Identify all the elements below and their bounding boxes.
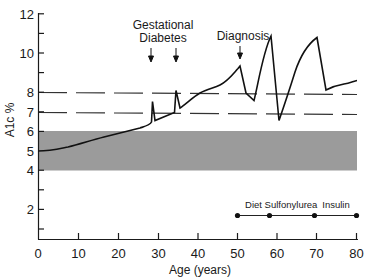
svg-text:60: 60	[270, 246, 284, 261]
y-tick-labels: 12 10 8 7 6 5 4 2	[20, 7, 34, 218]
gestational-arrow-icon-2	[174, 48, 179, 62]
treatment-label-diet: Diet	[245, 199, 262, 210]
svg-text:30: 30	[151, 246, 165, 261]
x-axis-title: Age (years)	[169, 263, 231, 277]
a1c-chart: 12 10 8 7 6 5 4 2 0 10 20 30 40 50 60 70…	[0, 0, 369, 280]
svg-text:20: 20	[111, 246, 125, 261]
y-axis-title: A1c %	[3, 102, 17, 137]
diagnosis-label: Diagnosis	[217, 29, 270, 43]
reference-line-7	[38, 113, 357, 115]
treatment-label-sulfonylurea: Sulfonylurea	[265, 199, 319, 210]
normal-range-band	[38, 131, 357, 171]
diagnosis-arrow-icon	[238, 46, 243, 59]
svg-text:5: 5	[27, 144, 34, 159]
svg-text:2: 2	[27, 202, 34, 217]
svg-text:50: 50	[230, 246, 244, 261]
x-tick-labels: 0 10 20 30 40 50 60 70 80	[34, 246, 363, 261]
svg-text:7: 7	[27, 105, 34, 120]
x-ticks	[79, 233, 357, 239]
svg-text:4: 4	[27, 163, 34, 178]
svg-text:0: 0	[34, 246, 41, 261]
svg-text:40: 40	[191, 246, 205, 261]
svg-text:12: 12	[20, 7, 34, 22]
svg-text:70: 70	[309, 246, 323, 261]
svg-text:8: 8	[27, 85, 34, 100]
svg-text:6: 6	[27, 124, 34, 139]
svg-text:10: 10	[71, 246, 85, 261]
gestational-arrow-icon-1	[149, 48, 154, 62]
gestational-label-line2: Diabetes	[139, 31, 186, 45]
svg-text:10: 10	[20, 46, 34, 61]
treatment-label-insulin: Insulin	[322, 199, 349, 210]
svg-text:80: 80	[349, 246, 363, 261]
gestational-label-line1: Gestational	[133, 18, 194, 32]
